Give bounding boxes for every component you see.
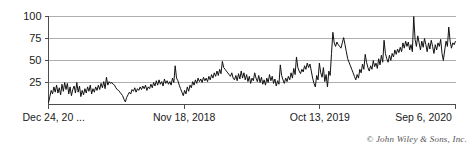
y-axis-label-75: 75 (29, 32, 41, 44)
x-axis-label-0: Dec 24, 20 ... (23, 111, 85, 123)
y-axis-label-100: 100 (23, 10, 41, 22)
x-axis-label-1: Nov 18, 2018 (153, 111, 216, 123)
copyright-notice: © John Wiley & Sons, Inc. (366, 134, 467, 144)
time-series-chart: 255075100Dec 24, 20 ...Nov 18, 2018Oct 1… (0, 0, 473, 148)
y-axis-label-25: 25 (29, 76, 41, 88)
chart-canvas: 255075100Dec 24, 20 ...Nov 18, 2018Oct 1… (0, 0, 473, 148)
x-axis-label-2: Oct 13, 2019 (290, 111, 350, 123)
x-axis-label-3: Sep 6, 2020 (395, 111, 452, 123)
series-line-0 (49, 17, 456, 103)
y-axis-label-50: 50 (29, 54, 41, 66)
